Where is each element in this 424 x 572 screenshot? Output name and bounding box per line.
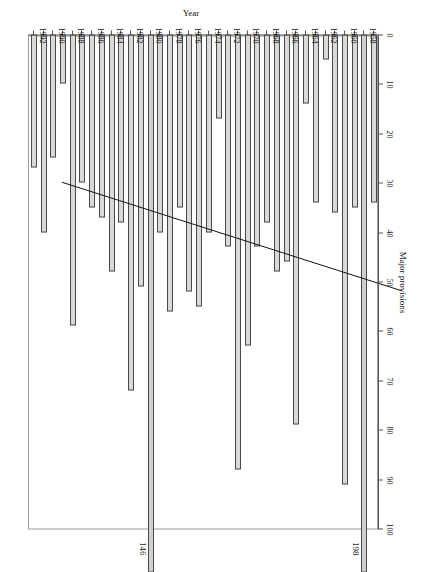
- value-axis: 1009080706050403020100: [378, 35, 379, 529]
- category-tick-label: 1984: [115, 27, 124, 43]
- category-tick-label: 1968: [271, 27, 280, 43]
- plot-area: [28, 35, 378, 529]
- category-tick-label: 1988: [76, 27, 85, 43]
- category-tick: [305, 30, 306, 35]
- category-tick-label: 1990: [57, 27, 66, 43]
- value-tick-label: 0: [385, 23, 394, 47]
- category-tick-label: 1966: [290, 27, 299, 43]
- category-tick: [247, 30, 248, 35]
- category-tick: [208, 30, 209, 35]
- value-tick: [378, 281, 383, 282]
- bar-value-annotation: 198: [351, 542, 361, 556]
- bar-value-annotation: 146: [138, 542, 148, 556]
- value-tick: [378, 528, 383, 529]
- category-tick-label: 1992: [38, 27, 47, 43]
- category-tick-label: 1962: [329, 27, 338, 43]
- value-tick: [378, 330, 383, 331]
- value-tick: [378, 380, 383, 381]
- value-tick-label: 70: [385, 369, 394, 393]
- value-tick-label: 30: [385, 171, 394, 195]
- category-tick: [227, 30, 228, 35]
- category-tick: [130, 30, 131, 35]
- category-axis: 1958196019621964196619681970197219741976…: [28, 34, 379, 35]
- bar: [50, 34, 56, 158]
- category-tick-label: 1982: [135, 27, 144, 43]
- value-tick: [378, 479, 383, 480]
- value-tick: [378, 133, 383, 134]
- category-tick: [344, 30, 345, 35]
- value-tick-label: 40: [385, 221, 394, 245]
- category-tick: [52, 30, 53, 35]
- value-tick-label: 90: [385, 468, 394, 492]
- trendline: [57, 0, 407, 488]
- bar: [41, 34, 47, 232]
- category-tick: [72, 30, 73, 35]
- category-tick: [286, 30, 287, 35]
- value-tick-label: 60: [385, 319, 394, 343]
- category-tick: [150, 30, 151, 35]
- value-tick-label: 50: [385, 270, 394, 294]
- category-tick-label: 1960: [349, 27, 358, 43]
- category-tick: [111, 30, 112, 35]
- category-tick-label: 1980: [154, 27, 163, 43]
- category-tick: [325, 30, 326, 35]
- category-tick-label: 1964: [310, 27, 319, 43]
- category-tick-label: 1970: [251, 27, 260, 43]
- value-tick-label: 80: [385, 418, 394, 442]
- category-tick-label: 1974: [213, 27, 222, 43]
- category-tick: [91, 30, 92, 35]
- category-tick: [33, 30, 34, 35]
- category-tick-label: 1958: [368, 27, 377, 43]
- category-tick: [363, 30, 364, 35]
- value-tick: [378, 429, 383, 430]
- category-tick-label: 1986: [96, 27, 105, 43]
- category-tick: [188, 30, 189, 35]
- value-tick-label: 100: [385, 517, 394, 541]
- category-tick: [266, 30, 267, 35]
- category-tick-label: 1976: [193, 27, 202, 43]
- value-tick-label: 20: [385, 122, 394, 146]
- bar: [31, 34, 37, 167]
- value-tick: [378, 83, 383, 84]
- category-tick-label: 1972: [232, 27, 241, 43]
- value-tick: [378, 182, 383, 183]
- category-tick: [169, 30, 170, 35]
- value-tick: [378, 232, 383, 233]
- category-axis-title: Year: [183, 8, 200, 18]
- value-tick-label: 10: [385, 72, 394, 96]
- value-axis-title: Major provisions: [398, 35, 408, 529]
- category-tick-label: 1978: [174, 27, 183, 43]
